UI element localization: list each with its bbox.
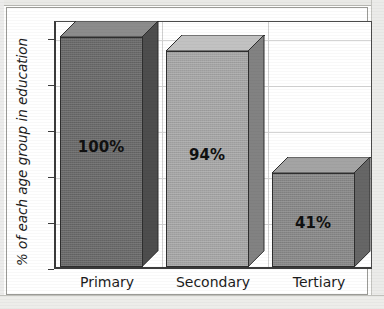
scanned-page: % of each age group in education 0204060… — [0, 0, 384, 309]
bar[interactable]: 41% — [272, 157, 371, 267]
category-separator — [162, 22, 163, 267]
bar-side-face — [142, 21, 159, 267]
bar[interactable]: 100% — [60, 21, 159, 267]
bar-value-label: 41% — [272, 214, 355, 232]
bar-value-label: 100% — [60, 138, 143, 156]
y-axis-title: % of each age group in education — [13, 8, 31, 296]
x-axis-label: Primary — [54, 274, 160, 290]
y-axis-tick-mark — [48, 269, 54, 270]
scan-left-margin — [0, 0, 4, 309]
x-axis-label: Tertiary — [266, 274, 372, 290]
plot-area: 100%94%41% — [54, 21, 372, 269]
category-separator — [268, 22, 269, 267]
bar-value-label: 94% — [166, 146, 249, 164]
bar[interactable]: 94% — [166, 35, 265, 267]
chart-container: % of each age group in education 0204060… — [6, 7, 368, 295]
scan-right-margin — [372, 0, 384, 309]
scan-top-rule — [0, 5, 384, 6]
bar-side-face — [354, 157, 371, 267]
x-axis-label: Secondary — [160, 274, 266, 290]
bar-side-face — [248, 35, 265, 267]
scan-bottom-margin — [0, 296, 384, 309]
